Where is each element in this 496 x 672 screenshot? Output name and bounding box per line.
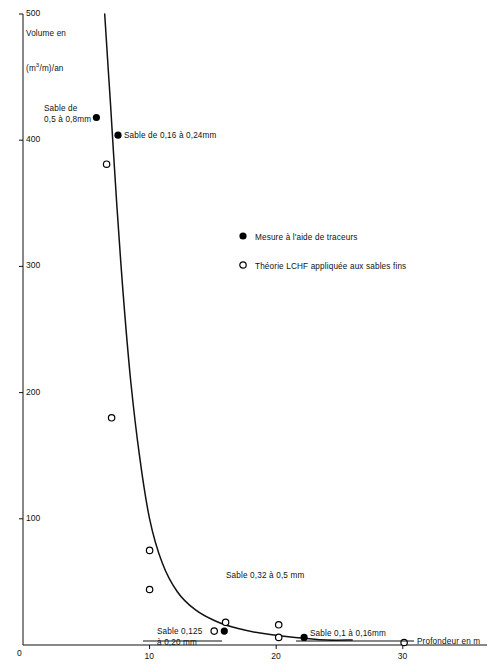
legend-label: Mesure à l'aide de traceurs (255, 233, 358, 242)
data-point-open (222, 619, 228, 625)
legend-label: Théorie LCHF appliquée aux sables fins (255, 262, 406, 271)
annotation-text-line1: Sable de 0,16 à 0,24mm (124, 131, 217, 142)
x-tick-label: 10 (145, 651, 154, 661)
y-tick-label: 200 (26, 387, 40, 397)
annotation-sable-01-016: Sable 0,1 à 0,16mm (310, 629, 386, 640)
annotation-sable-032-05: Sable 0,32 à 0,5 mm (226, 571, 304, 582)
y-axis-ticks (19, 14, 23, 519)
data-point-open (401, 639, 407, 645)
trend-curve (105, 14, 353, 640)
annotation-text-line1: Sable de (44, 104, 91, 115)
y-tick-label: 100 (26, 513, 40, 523)
x-axis-label: Profondeur en m (417, 637, 480, 648)
annotation-sable-016-024: Sable de 0,16 à 0,24mm (124, 131, 217, 142)
x-tick-label: 30 (398, 651, 407, 661)
chart-figure: Volume en (m3/m)/an Profondeur en m Sabl… (0, 0, 496, 672)
x-tick-label: 20 (271, 651, 280, 661)
annotation-sable-0125-020: Sable 0,125à 0,20 mm (157, 627, 202, 648)
y-tick-label: 400 (26, 134, 40, 144)
y-tick-label: 500 (26, 8, 40, 18)
y-tick-label: 0 (17, 648, 22, 658)
data-point-filled (114, 132, 121, 139)
data-point-filled (301, 634, 308, 641)
y-axis-label-line2: (m3/m)/an (26, 61, 66, 74)
y-axis-label-line1: Volume en (26, 29, 66, 40)
legend-marker-open-circle (237, 259, 249, 271)
data-point-open (276, 622, 282, 628)
data-point-filled (221, 628, 228, 635)
data-point-open (146, 547, 152, 553)
annotation-text-line1: Sable 0,32 à 0,5 mm (226, 571, 304, 582)
data-point-open (103, 161, 109, 167)
annotation-text-line2: 0,5 à 0,8mm (44, 115, 91, 126)
data-point-filled (93, 114, 100, 121)
legend-marker-filled-circle (237, 230, 249, 242)
data-point-open (211, 628, 217, 634)
annotation-text-line1: Sable 0,1 à 0,16mm (310, 629, 386, 640)
data-point-open (276, 634, 282, 640)
data-point-open (146, 586, 152, 592)
y-tick-label: 300 (26, 260, 40, 270)
annotation-text-line2: à 0,20 mm (157, 638, 202, 649)
annotation-text-line1: Sable 0,125 (157, 627, 202, 638)
y-axis-label: Volume en (m3/m)/an (26, 8, 66, 95)
series-mesure-traceurs-points (93, 114, 308, 641)
annotation-sable-05-08: Sable de0,5 à 0,8mm (44, 104, 91, 125)
data-point-open (108, 415, 114, 421)
